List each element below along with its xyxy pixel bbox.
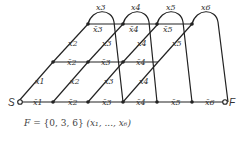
diag-label: x2 (68, 39, 78, 48)
caption-set-value: {0, 3, 6} (44, 118, 84, 128)
edge-label: x̄4 (136, 58, 146, 67)
sink-node (223, 100, 228, 105)
caption-variables: (x₁, ..., x₆) (87, 118, 131, 128)
node (51, 60, 55, 64)
arc-label: x5 (166, 3, 176, 12)
edge-label: x̄1 (33, 98, 43, 107)
node (86, 100, 90, 104)
node (155, 100, 159, 104)
edge-label: x̄6 (205, 98, 215, 107)
node (121, 100, 125, 104)
diag-label: x2 (70, 77, 80, 86)
diag-label: x1 (35, 77, 45, 86)
diag-label: x5 (172, 39, 182, 48)
arc-label: x4 (131, 3, 141, 12)
edge-label: x̄5 (171, 98, 181, 107)
source-node (18, 100, 23, 105)
sink-label: F (229, 97, 236, 108)
source-label: S (8, 97, 15, 108)
node (86, 60, 90, 64)
caption-equals: = (33, 118, 41, 128)
node (51, 100, 55, 104)
arc-x6 (192, 12, 228, 102)
edge-label: x̄3 (93, 25, 103, 34)
edge-label: x̄2 (67, 58, 77, 67)
arc-label: x6 (201, 3, 211, 12)
diag-label: x3 (104, 77, 114, 86)
edge-label: x̄3 (102, 98, 112, 107)
diag-label: x4 (139, 77, 149, 86)
caption-set-name: F (24, 118, 30, 128)
node (121, 22, 125, 26)
edge-label: x̄5 (163, 25, 173, 34)
edge-label: x̄3 (101, 58, 111, 67)
node (190, 100, 194, 104)
arc-label: x3 (96, 3, 106, 12)
diag-label: x4 (137, 39, 147, 48)
edge-label: x̄2 (68, 98, 78, 107)
node (190, 22, 194, 26)
node (121, 60, 125, 64)
edge-label: x̄4 (129, 25, 139, 34)
caption: F = {0, 3, 6} (x₁, ..., x₆) (24, 118, 131, 128)
diag-label: x3 (102, 39, 112, 48)
edge-label: x̄4 (136, 98, 146, 107)
node (86, 22, 90, 26)
node (155, 22, 159, 26)
